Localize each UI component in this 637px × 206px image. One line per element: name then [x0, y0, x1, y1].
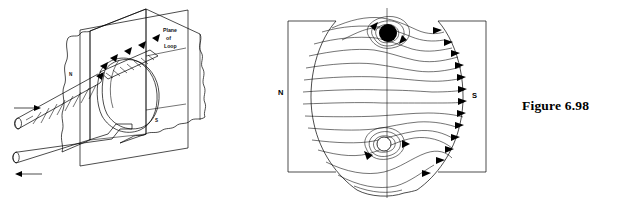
plane-of-loop-line2: of [166, 35, 171, 41]
current-arrow-in [14, 105, 41, 111]
current-arrow-out [15, 171, 42, 177]
pole-piece-left [288, 21, 336, 172]
label-south-pole-right: S [472, 91, 477, 100]
perspective-diagram: Plane of Loop N S [0, 0, 250, 206]
field-line-bundle [303, 26, 464, 143]
plane-of-loop-line1: Plane [163, 27, 177, 33]
label-plane-of-loop: Plane of Loop [163, 27, 177, 49]
label-north-pole-left: N [69, 72, 73, 77]
plane-of-loop-line3: Loop [164, 43, 177, 49]
conductor-top-filled [367, 16, 409, 48]
panel-perspective-view: Plane of Loop N S [0, 0, 250, 206]
figure-caption: Figure 6.98 [522, 98, 632, 114]
plane-of-loop-sheet [80, 10, 188, 166]
magnet-pole-face-north [61, 9, 146, 152]
lead-rod-lower [13, 124, 132, 163]
label-south-pole-left: S [155, 118, 158, 123]
figure-container: Plane of Loop N S [0, 0, 637, 206]
lead-rod-upper [15, 74, 102, 129]
label-north-pole-right: N [278, 88, 283, 97]
field-line-diagram: N S [262, 0, 512, 206]
loop-hatched-band [100, 50, 158, 79]
panel-field-cross-section: N S [262, 0, 512, 206]
